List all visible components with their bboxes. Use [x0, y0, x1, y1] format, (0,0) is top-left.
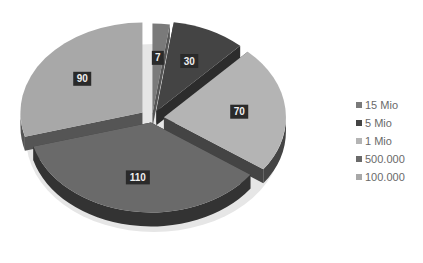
legend-label: 500.000: [365, 153, 405, 165]
legend-label: 15 Mio: [365, 99, 398, 111]
legend-item-100000: 100.000: [356, 168, 405, 186]
data-label: 7: [155, 52, 161, 63]
legend-swatch: [356, 138, 362, 144]
data-label: 90: [77, 73, 89, 84]
legend-item-500000: 500.000: [356, 150, 405, 168]
legend-label: 100.000: [365, 171, 405, 183]
data-label: 110: [130, 172, 147, 183]
legend-item-15-mio: 15 Mio: [356, 96, 405, 114]
legend-swatch: [356, 102, 362, 108]
legend-label: 5 Mio: [365, 117, 392, 129]
data-label: 30: [184, 56, 196, 67]
legend: 15 Mio 5 Mio 1 Mio 500.000 100.000: [356, 96, 405, 186]
legend-label: 1 Mio: [365, 135, 392, 147]
legend-swatch: [356, 120, 362, 126]
data-label: 70: [234, 106, 246, 117]
legend-swatch: [356, 174, 362, 180]
legend-swatch: [356, 156, 362, 162]
legend-item-5-mio: 5 Mio: [356, 114, 405, 132]
legend-item-1-mio: 1 Mio: [356, 132, 405, 150]
